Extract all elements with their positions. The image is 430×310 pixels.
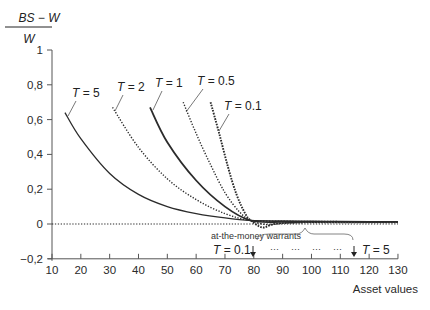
y-tick-label: 0,6 <box>27 114 43 126</box>
arrow-down-icon <box>250 252 256 257</box>
label-t01: T = 0.1 <box>224 99 262 113</box>
dots-1: ··· <box>270 244 279 254</box>
label-t2: T = 2 <box>117 80 145 94</box>
curve-t-0-5 <box>183 102 398 225</box>
leader-t05 <box>186 89 203 112</box>
x-axis-ticks: 102030405060708090100110120130 <box>46 254 408 276</box>
x-tick-label: 130 <box>388 264 407 276</box>
x-tick-label: 80 <box>247 264 260 276</box>
arrow-down-icon <box>351 252 357 257</box>
y-label-numerator: BS − W <box>18 11 61 25</box>
x-tick-label: 90 <box>276 264 289 276</box>
x-tick-label: 20 <box>74 264 87 276</box>
x-tick-label: 60 <box>190 264 203 276</box>
y-tick-label: −0,2 <box>20 253 43 265</box>
label-t05: T = 0.5 <box>197 74 235 88</box>
atm-label: at-the-money warrants <box>211 231 302 241</box>
curve-t-1 <box>150 107 398 222</box>
x-tick-label: 30 <box>103 264 116 276</box>
x-tick-label: 50 <box>161 264 174 276</box>
curve-labels: T = 5 T = 2 T = 1 T = 0.5 T = 0.1 <box>68 74 262 131</box>
y-tick-label: 1 <box>37 44 43 56</box>
y-tick-label: 0,2 <box>27 183 43 195</box>
x-axis-label: Asset values <box>353 283 418 295</box>
arrow-right-label: T = 5 <box>362 243 390 257</box>
leader-t2 <box>115 95 123 111</box>
x-tick-label: 110 <box>331 264 349 276</box>
leader-t01 <box>219 114 229 131</box>
y-tick-label: 0,4 <box>27 148 44 160</box>
leader-t1 <box>153 91 162 110</box>
y-axis-label: BS − W W <box>5 11 61 46</box>
dots-3: ··· <box>312 244 321 254</box>
y-tick-label: 0 <box>37 218 43 230</box>
leader-t5 <box>68 101 76 116</box>
label-t5: T = 5 <box>72 86 100 100</box>
x-tick-label: 120 <box>360 264 379 276</box>
curve-t-0-1 <box>211 102 398 227</box>
chart: BS − W W 10,80,60,40,20−0,2 102030405060… <box>0 0 430 310</box>
label-t1: T = 1 <box>155 76 183 90</box>
x-tick-label: 10 <box>46 264 59 276</box>
y-tick-label: 0,8 <box>27 79 43 91</box>
y-label-denominator: W <box>23 32 36 46</box>
x-tick-label: 70 <box>219 264 232 276</box>
curve-t-2 <box>113 107 398 221</box>
y-axis-ticks: 10,80,60,40,20−0,2 <box>20 44 52 265</box>
curve-t-5 <box>65 113 398 222</box>
dots-4: ··· <box>333 244 342 254</box>
x-tick-label: 40 <box>132 264 145 276</box>
arrow-left-label: T = 0.1 <box>213 243 251 257</box>
atm-annotation: at-the-money warrants T = 0.1 ··· ··· ··… <box>211 228 390 257</box>
x-tick-label: 100 <box>302 264 321 276</box>
dots-2: ··· <box>291 244 300 254</box>
